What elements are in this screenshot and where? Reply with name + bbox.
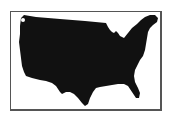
usa-silhouette-map: [0, 0, 173, 120]
usa-shape: [19, 15, 158, 106]
puget-sound-notch: [21, 18, 25, 22]
